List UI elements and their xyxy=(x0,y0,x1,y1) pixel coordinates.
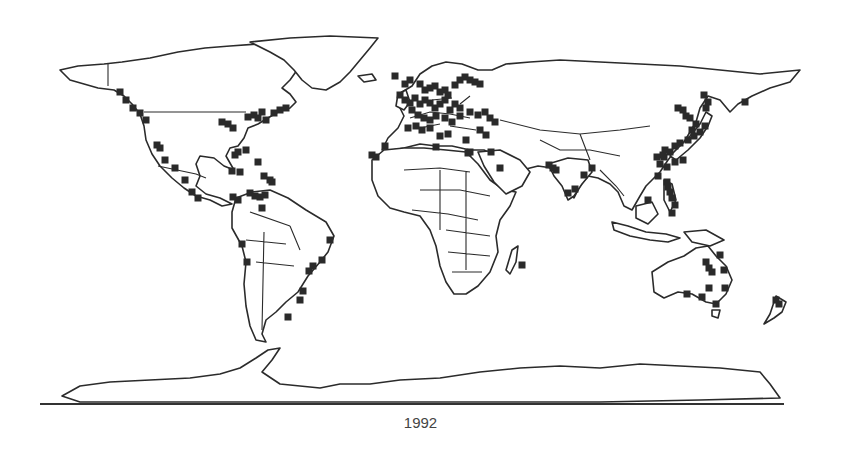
station-marker xyxy=(259,205,266,212)
station-marker xyxy=(685,137,692,144)
station-marker xyxy=(235,197,242,204)
station-marker xyxy=(244,259,251,266)
station-marker xyxy=(392,73,399,80)
station-marker xyxy=(565,190,572,197)
station-marker xyxy=(519,262,526,269)
station-marker xyxy=(483,132,490,139)
station-marker xyxy=(419,127,426,134)
station-marker xyxy=(669,195,676,202)
station-marker xyxy=(433,113,440,120)
station-marker xyxy=(589,165,596,172)
station-marker xyxy=(117,89,124,96)
station-marker xyxy=(243,147,250,154)
station-marker xyxy=(421,115,428,122)
map-caption-year: 1992 xyxy=(0,414,841,431)
station-marker xyxy=(492,119,499,126)
station-marker xyxy=(447,107,454,114)
station-marker xyxy=(283,105,290,112)
station-marker xyxy=(437,133,444,140)
north-america-outline xyxy=(60,42,320,206)
station-marker xyxy=(705,99,712,106)
station-marker xyxy=(680,157,687,164)
station-marker xyxy=(581,172,588,179)
station-marker xyxy=(219,119,226,126)
station-marker xyxy=(467,109,474,116)
station-marker xyxy=(143,117,150,124)
station-marker xyxy=(701,92,708,99)
station-marker xyxy=(277,107,284,114)
station-marker xyxy=(172,165,179,172)
new-guinea-outline xyxy=(684,230,724,246)
borneo-outline xyxy=(636,202,658,224)
station-marker xyxy=(684,291,691,298)
station-marker xyxy=(263,117,270,124)
station-marker xyxy=(683,113,690,120)
station-marker xyxy=(319,257,326,264)
station-marker xyxy=(477,127,484,134)
station-marker xyxy=(413,123,420,130)
indonesia-outline xyxy=(612,222,680,242)
station-marker xyxy=(162,157,169,164)
station-marker xyxy=(691,133,698,140)
south-america-outline xyxy=(232,190,334,342)
station-marker xyxy=(722,285,729,292)
station-marker xyxy=(409,107,416,114)
station-marker xyxy=(709,269,716,276)
station-marker xyxy=(239,241,246,248)
station-marker xyxy=(427,117,434,124)
station-marker xyxy=(776,301,783,308)
station-marker xyxy=(189,189,196,196)
station-marker xyxy=(449,119,456,126)
station-marker xyxy=(693,121,700,128)
station-marker xyxy=(445,131,452,138)
station-marker xyxy=(669,210,676,217)
station-marker xyxy=(657,161,664,168)
station-marker xyxy=(415,112,422,119)
station-marker xyxy=(465,150,472,157)
station-marker xyxy=(699,294,706,301)
station-marker xyxy=(427,125,434,132)
station-marker xyxy=(130,105,137,112)
station-marker xyxy=(706,285,713,292)
station-marker xyxy=(306,268,313,275)
station-marker xyxy=(717,252,724,259)
station-marker xyxy=(713,301,720,308)
station-marker xyxy=(417,81,424,88)
station-marker xyxy=(667,189,674,196)
station-marker xyxy=(123,97,130,104)
station-marker xyxy=(269,179,276,186)
station-marker xyxy=(672,159,679,166)
station-marker xyxy=(675,105,682,112)
station-marker xyxy=(407,77,414,84)
iceland-outline xyxy=(358,74,376,82)
station-marker xyxy=(137,110,144,117)
station-marker xyxy=(497,165,504,172)
station-marker xyxy=(677,140,684,147)
station-marker xyxy=(285,314,292,321)
station-marker xyxy=(237,169,244,176)
station-marker xyxy=(654,154,661,161)
station-marker xyxy=(689,127,696,134)
station-marker xyxy=(572,186,579,193)
station-marker xyxy=(463,137,470,144)
station-marker xyxy=(382,143,389,150)
station-marker xyxy=(697,129,704,136)
station-marker xyxy=(261,173,268,180)
station-marker xyxy=(405,125,412,132)
station-marker xyxy=(703,105,710,112)
station-marker xyxy=(262,192,269,199)
station-marker xyxy=(442,115,449,122)
station-marker xyxy=(373,154,380,161)
station-marker xyxy=(327,237,334,244)
station-marker xyxy=(457,105,464,112)
station-marker xyxy=(259,109,266,116)
station-marker xyxy=(475,112,482,119)
station-marker xyxy=(412,95,419,102)
station-marker xyxy=(300,288,307,295)
station-marker xyxy=(660,152,667,159)
station-marker xyxy=(645,197,652,204)
station-marker xyxy=(703,259,710,266)
station-marker xyxy=(229,168,236,175)
station-marker xyxy=(664,164,671,171)
station-marker xyxy=(553,167,560,174)
